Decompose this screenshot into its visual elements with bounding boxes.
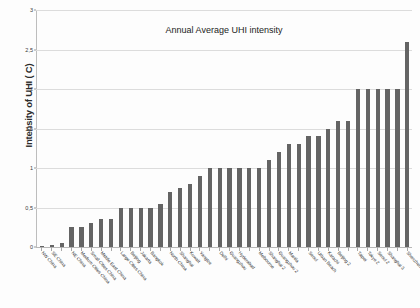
x-label-cell: Shanghai 2 [264, 251, 274, 308]
x-label-cell: Shanghai [175, 251, 185, 308]
bar [287, 144, 291, 247]
y-tick-label: 3 [30, 7, 33, 13]
x-label-cell: Guangzhou 2 [274, 251, 284, 308]
x-label-cell: Hyderabad [235, 251, 245, 308]
x-label-cell [393, 251, 403, 308]
x-label-cell: Large Cities China [116, 251, 126, 308]
bar [346, 121, 350, 247]
bar-cell [323, 10, 333, 247]
bar-cell [96, 10, 106, 247]
x-label-cell: Kuwait [185, 251, 195, 308]
x-label-cell [294, 251, 304, 308]
y-tickmark [34, 168, 36, 169]
bar [119, 208, 123, 248]
bar [366, 89, 370, 247]
bar-cell [304, 10, 314, 247]
bar-cell [205, 10, 215, 247]
bar [257, 168, 261, 247]
x-label-cell: Beijing 2 [333, 251, 343, 308]
y-tickmark [34, 247, 36, 248]
bar-cell [373, 10, 383, 247]
x-label-cell: Shenzhen [402, 251, 412, 308]
x-label-cell: Small Cities China [86, 251, 96, 308]
bar-cell [343, 10, 353, 247]
x-label-cell: Delhi [215, 251, 225, 308]
bar [139, 208, 143, 248]
bar [99, 219, 103, 247]
bar-cell [136, 10, 146, 247]
bar [395, 89, 399, 247]
bar-cell [67, 10, 77, 247]
bar [69, 227, 73, 247]
y-tick-label: 1,5 [25, 126, 33, 132]
x-label-cell: Manila [284, 251, 294, 308]
bar [237, 168, 241, 247]
bar [178, 188, 182, 247]
x-label-cell: NW China [37, 251, 47, 308]
x-axis-labels: NW ChinaSE ChinaNE ChinaMedium Cities Ch… [37, 251, 412, 308]
bar [336, 121, 340, 247]
bar-cell [314, 10, 324, 247]
bar [168, 192, 172, 247]
x-label-cell: Bangkok [146, 251, 156, 308]
plot-area: 00,511,522,53 [36, 10, 412, 247]
bar [385, 89, 389, 247]
bar [326, 129, 330, 248]
bar-cell [393, 10, 403, 247]
bar-cell [225, 10, 235, 247]
x-label-cell: Beijing [126, 251, 136, 308]
chart-figure: Intensity of UHI ( C) Annual Average UHI… [0, 0, 420, 308]
y-tickmark [34, 49, 36, 50]
bar-cell [116, 10, 126, 247]
bar [306, 136, 310, 247]
y-tick-label: 2,5 [25, 47, 33, 53]
bar-cell [57, 10, 67, 247]
bar [148, 208, 152, 248]
bar-cell [274, 10, 284, 247]
y-tick-label: 1 [30, 165, 33, 171]
y-tick-label: 0,5 [25, 205, 33, 211]
bar [109, 219, 113, 247]
x-label-cell [205, 251, 215, 308]
bar [227, 168, 231, 247]
y-tick-label: 0 [30, 244, 33, 250]
bar-cell [47, 10, 57, 247]
bar-cell [37, 10, 47, 247]
y-tickmark [34, 89, 36, 90]
x-label-cell: Urban Beach [314, 251, 324, 308]
bar [405, 42, 409, 247]
x-label-cell: Yangtze [195, 251, 205, 308]
bar [158, 204, 162, 247]
bar [79, 227, 83, 247]
bar-cell [264, 10, 274, 247]
bar-cell [77, 10, 87, 247]
x-label-cell [156, 251, 166, 308]
bar [376, 89, 380, 247]
bar [208, 168, 212, 247]
bar [218, 168, 222, 247]
y-tickmark [34, 207, 36, 208]
y-tick-label: 2 [30, 86, 33, 92]
bar [267, 160, 271, 247]
bar-cell [215, 10, 225, 247]
bar-cell [294, 10, 304, 247]
x-label-cell [343, 251, 353, 308]
bar [188, 184, 192, 247]
bar-cell [235, 10, 245, 247]
x-tick-label: Shenzhen [406, 250, 420, 268]
x-label-cell: Guangzhou [225, 251, 235, 308]
bar [89, 223, 93, 247]
x-label-cell: North China [165, 251, 175, 308]
x-label-cell: NE China [67, 251, 77, 308]
bar [277, 152, 281, 247]
bar-cell [244, 10, 254, 247]
bar-cell [146, 10, 156, 247]
x-label-cell: Taipei [353, 251, 363, 308]
bar-cell [165, 10, 175, 247]
x-label-cell: Karachi [323, 251, 333, 308]
bar-cell [353, 10, 363, 247]
bar [316, 136, 320, 247]
x-label-cell [244, 251, 254, 308]
bar [297, 144, 301, 247]
bar [198, 176, 202, 247]
